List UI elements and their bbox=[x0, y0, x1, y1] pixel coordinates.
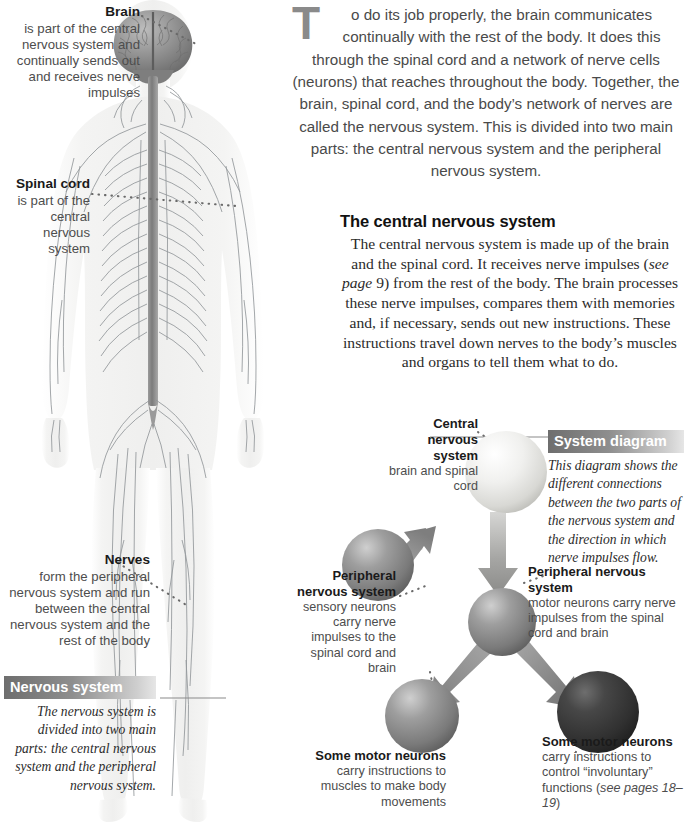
label-motor-center-title: Some motor neurons bbox=[294, 748, 446, 764]
label-motor-involuntary: Some motor neurons carry instructions to… bbox=[542, 734, 684, 811]
label-peripheral-right-body: motor neurons carry nerve impulses from … bbox=[528, 596, 676, 641]
label-peripheral-left-title: Peripheral nervous system bbox=[288, 568, 396, 600]
callout-spinal-cord-title: Spinal cord bbox=[6, 176, 90, 193]
callout-spinal-cord-body: is part of the central nervous system bbox=[17, 193, 90, 256]
label-central-nervous-system: Central nervous system brain and spinal … bbox=[380, 416, 478, 494]
section-body-part1: The central nervous system is made up of… bbox=[351, 235, 669, 272]
label-peripheral-sensory: Peripheral nervous system sensory neuron… bbox=[288, 568, 396, 677]
callout-nerves-title: Nerves bbox=[0, 552, 150, 569]
callout-nerves: Nerves form the peripheral nervous syste… bbox=[0, 552, 150, 649]
label-motor-right-body-b: ) bbox=[556, 796, 560, 810]
label-motor-center-body: carry instructions to muscles to make bo… bbox=[321, 764, 446, 809]
section-heading: The central nervous system bbox=[340, 212, 680, 231]
system-diagram-box-title: System diagram bbox=[548, 430, 684, 453]
label-motor-right-title: Some motor neurons bbox=[542, 734, 684, 750]
label-central-title: Central nervous system bbox=[380, 416, 478, 464]
callout-brain: Brain is part of the central nervous sys… bbox=[6, 4, 140, 101]
callout-brain-body: is part of the central nervous system an… bbox=[17, 21, 140, 100]
callout-brain-title: Brain bbox=[6, 4, 140, 21]
nervous-system-box-title: Nervous system bbox=[4, 676, 156, 699]
label-peripheral-motor: Peripheral nervous system motor neurons … bbox=[528, 564, 682, 642]
arrow-motor-down bbox=[478, 512, 518, 596]
nervous-system-callout-box: Nervous system The nervous system is div… bbox=[4, 676, 156, 795]
label-motor-voluntary: Some motor neurons carry instructions to… bbox=[294, 748, 446, 810]
callout-nerves-body: form the peripheral nervous system and r… bbox=[9, 569, 150, 648]
sphere-peripheral-motor bbox=[468, 588, 536, 656]
callout-spinal-cord: Spinal cord is part of the central nervo… bbox=[6, 176, 90, 257]
section-body-part2: 9) from the rest of the body. The brain … bbox=[343, 274, 678, 370]
system-diagram-box-body: This diagram shows the different connect… bbox=[548, 453, 684, 568]
label-central-body: brain and spinal cord bbox=[389, 464, 478, 493]
section-body: The central nervous system is made up of… bbox=[340, 234, 680, 372]
nervous-system-box-body: The nervous system is divided into two m… bbox=[4, 699, 156, 795]
intro-text: o do its job properly, the brain communi… bbox=[293, 6, 680, 179]
system-diagram-callout-box: System diagram This diagram shows the di… bbox=[548, 430, 684, 568]
label-peripheral-right-title: Peripheral nervous system bbox=[528, 564, 682, 596]
central-nervous-system-section: The central nervous system The central n… bbox=[340, 212, 680, 372]
label-peripheral-left-body: sensory neurons carry nerve impulses to … bbox=[303, 600, 396, 675]
intro-paragraph: To do its job properly, the brain commun… bbox=[292, 4, 680, 183]
sphere-motor-voluntary bbox=[385, 679, 459, 753]
drop-cap: T bbox=[292, 6, 320, 40]
page-root: To do its job properly, the brain commun… bbox=[0, 0, 684, 829]
